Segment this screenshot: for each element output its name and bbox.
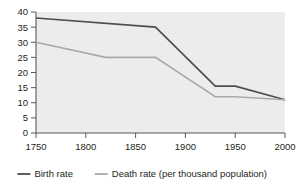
x-tick-label: 1950 <box>225 141 246 152</box>
legend-label-0: Birth rate <box>34 168 73 179</box>
x-tick-label: 1800 <box>75 141 96 152</box>
y-tick-label: 20 <box>17 67 28 78</box>
chart-legend: Birth rateDeath rate (per thousand popul… <box>17 168 267 179</box>
y-tick-label: 0 <box>23 127 28 138</box>
x-tick-label: 1850 <box>125 141 146 152</box>
y-tick-label: 5 <box>23 112 28 123</box>
x-tick-label: 1750 <box>25 141 46 152</box>
y-tick-label: 25 <box>17 52 28 63</box>
line-chart: 0510152025303540 17501800185019001950200… <box>0 0 307 188</box>
y-tick-label: 40 <box>17 6 28 17</box>
x-tick-label: 2000 <box>274 141 295 152</box>
x-axis-labels: 175018001850190019502000 <box>25 141 295 152</box>
x-tick-label: 1900 <box>175 141 196 152</box>
chart-canvas: 0510152025303540 17501800185019001950200… <box>0 0 307 188</box>
y-axis-ticks <box>31 12 36 133</box>
x-axis-ticks <box>36 133 285 138</box>
y-tick-label: 15 <box>17 82 28 93</box>
legend-label-1: Death rate (per thousand population) <box>112 168 267 179</box>
y-axis-labels: 0510152025303540 <box>17 6 28 138</box>
y-tick-label: 35 <box>17 22 28 33</box>
y-tick-label: 30 <box>17 37 28 48</box>
plot-background <box>36 12 285 133</box>
y-tick-label: 10 <box>17 97 28 108</box>
